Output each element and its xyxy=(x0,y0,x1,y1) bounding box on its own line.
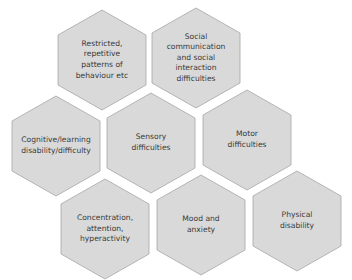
hexagon-diagram: Restricted, repetitive patterns of behav… xyxy=(0,0,352,280)
hex-label: Mood and anxiety xyxy=(159,175,243,275)
hex-concentration-attention: Concentration, attention, hyperactivity xyxy=(61,179,149,279)
hex-mood-anxiety: Mood and anxiety xyxy=(157,175,245,275)
hex-label: Concentration, attention, hyperactivity xyxy=(63,179,147,279)
hex-physical-disability: Physical disability xyxy=(253,171,341,271)
hex-label: Physical disability xyxy=(255,171,339,271)
